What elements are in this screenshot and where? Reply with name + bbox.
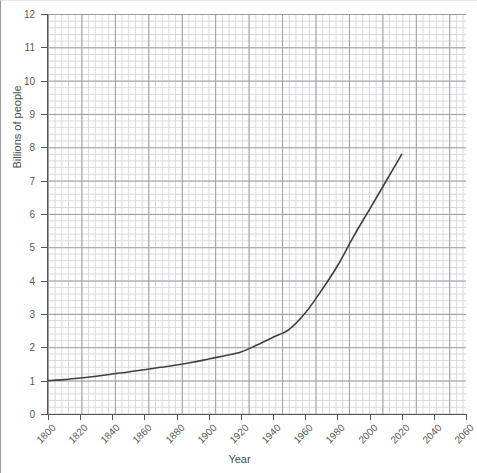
- y-tick-mark: [41, 314, 47, 315]
- x-tick-mark: [48, 414, 49, 420]
- series-line-world-population: [48, 14, 466, 414]
- x-tick-mark: [209, 414, 210, 420]
- x-tick-mark: [241, 414, 242, 420]
- x-tick-label: 1920: [220, 422, 250, 452]
- x-tick-label: 1820: [60, 422, 90, 452]
- x-tick-label: 1980: [317, 422, 347, 452]
- plot-area: [48, 14, 466, 414]
- x-tick-mark: [112, 414, 113, 420]
- y-tick-label: 1: [1, 375, 35, 386]
- population-growth-chart: 0123456789101112 18001820184018601880190…: [0, 0, 477, 473]
- y-tick-mark: [41, 47, 47, 48]
- y-tick-label: 4: [1, 275, 35, 286]
- x-tick-label: 1860: [124, 422, 154, 452]
- x-tick-mark: [434, 414, 435, 420]
- x-tick-mark: [80, 414, 81, 420]
- y-tick-mark: [41, 414, 47, 415]
- y-tick-label: 5: [1, 242, 35, 253]
- x-tick-mark: [370, 414, 371, 420]
- x-tick-mark: [402, 414, 403, 420]
- x-tick-mark: [144, 414, 145, 420]
- x-tick-mark: [177, 414, 178, 420]
- y-tick-mark: [41, 381, 47, 382]
- x-tick-mark: [273, 414, 274, 420]
- x-axis-title: Year: [1, 453, 477, 465]
- x-tick-label: 1960: [285, 422, 315, 452]
- x-tick-label: 2000: [349, 422, 379, 452]
- y-tick-mark: [41, 81, 47, 82]
- x-tick-mark: [466, 414, 467, 420]
- y-tick-mark: [41, 214, 47, 215]
- y-tick-label: 2: [1, 342, 35, 353]
- x-tick-label: 2020: [381, 422, 411, 452]
- x-tick-label: 1840: [92, 422, 122, 452]
- x-tick-mark: [337, 414, 338, 420]
- x-tick-mark: [305, 414, 306, 420]
- x-tick-label: 1900: [188, 422, 218, 452]
- y-tick-mark: [41, 347, 47, 348]
- y-tick-mark: [41, 247, 47, 248]
- x-tick-label: 1800: [27, 422, 57, 452]
- y-tick-label: 3: [1, 309, 35, 320]
- x-axis-line: [47, 414, 467, 415]
- y-tick-mark: [41, 147, 47, 148]
- y-tick-label: 0: [1, 409, 35, 420]
- x-tick-label: 2060: [445, 422, 475, 452]
- y-tick-label: 12: [1, 9, 35, 20]
- y-tick-mark: [41, 114, 47, 115]
- y-tick-mark: [41, 281, 47, 282]
- x-tick-label: 1880: [156, 422, 186, 452]
- y-tick-mark: [41, 14, 47, 15]
- y-axis-line: [47, 14, 48, 415]
- y-axis-title: Billions of people: [11, 37, 23, 217]
- x-tick-label: 1940: [252, 422, 282, 452]
- y-tick-mark: [41, 181, 47, 182]
- x-tick-label: 2040: [413, 422, 443, 452]
